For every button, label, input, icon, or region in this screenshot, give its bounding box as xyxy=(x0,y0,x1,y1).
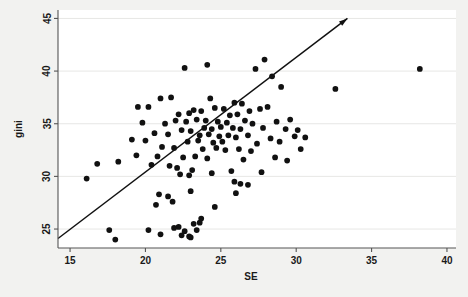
data-point xyxy=(180,155,186,161)
data-point xyxy=(233,190,239,196)
data-point xyxy=(262,57,268,63)
data-point xyxy=(106,227,112,233)
data-point xyxy=(210,140,216,146)
data-point xyxy=(268,136,274,142)
data-point xyxy=(204,156,210,162)
data-point xyxy=(283,126,289,132)
data-point xyxy=(238,126,244,132)
data-point xyxy=(112,237,118,243)
data-point xyxy=(233,135,239,141)
data-point xyxy=(247,108,253,114)
data-point xyxy=(191,221,197,227)
x-tick-label: 40 xyxy=(441,255,453,266)
data-point xyxy=(232,179,238,185)
data-point xyxy=(302,135,308,141)
data-point xyxy=(94,161,100,167)
data-point xyxy=(195,138,201,144)
data-point xyxy=(188,128,194,134)
data-point xyxy=(274,119,280,125)
data-point xyxy=(224,120,230,126)
data-point xyxy=(278,84,284,90)
data-point xyxy=(277,139,283,145)
data-point xyxy=(235,111,241,117)
data-point xyxy=(182,65,188,71)
data-point xyxy=(298,146,304,152)
data-point xyxy=(183,119,189,125)
data-point xyxy=(179,127,185,133)
data-point xyxy=(173,118,179,124)
data-point xyxy=(236,146,242,152)
data-point xyxy=(140,120,146,126)
data-point xyxy=(174,165,180,171)
data-point xyxy=(155,154,161,160)
data-point xyxy=(134,152,140,158)
data-point xyxy=(333,86,339,92)
data-point xyxy=(158,231,164,237)
data-point xyxy=(146,104,152,110)
data-point xyxy=(242,118,248,124)
x-axis-title: SE xyxy=(244,271,258,282)
data-point xyxy=(265,104,271,110)
data-point xyxy=(241,157,247,163)
data-point xyxy=(209,170,215,176)
data-point xyxy=(152,130,158,136)
data-point xyxy=(84,176,90,182)
data-point xyxy=(260,125,266,131)
data-point xyxy=(222,147,228,153)
data-point xyxy=(194,227,200,233)
data-point xyxy=(204,62,210,68)
plot-area-background xyxy=(58,10,456,248)
x-tick-label: 30 xyxy=(291,255,303,266)
data-point xyxy=(245,132,251,138)
data-point xyxy=(250,121,256,127)
data-point xyxy=(272,155,278,161)
data-point xyxy=(188,188,194,194)
data-point xyxy=(257,106,263,112)
data-point xyxy=(186,172,192,178)
y-tick-label: 30 xyxy=(41,170,52,182)
data-point xyxy=(287,117,293,123)
data-point xyxy=(218,124,224,130)
data-point xyxy=(254,141,260,147)
data-point xyxy=(295,127,301,133)
data-point xyxy=(135,104,141,110)
data-point xyxy=(167,163,173,169)
data-point xyxy=(213,145,219,151)
data-point xyxy=(253,66,259,72)
data-point xyxy=(219,139,225,145)
data-point xyxy=(159,144,165,150)
data-point xyxy=(239,101,245,107)
data-point xyxy=(259,169,265,175)
data-point xyxy=(230,125,236,131)
data-point xyxy=(179,232,185,238)
data-point xyxy=(188,235,194,241)
x-tick-label: 15 xyxy=(64,255,76,266)
data-point xyxy=(228,168,234,174)
data-point xyxy=(225,132,231,138)
data-point xyxy=(245,182,251,188)
data-point xyxy=(417,66,423,72)
data-point xyxy=(292,133,298,139)
y-tick-label: 35 xyxy=(42,118,53,130)
data-point xyxy=(227,112,233,118)
y-tick-label: 45 xyxy=(42,12,53,24)
data-point xyxy=(146,227,152,233)
data-point xyxy=(238,181,244,187)
y-tick-label: 40 xyxy=(41,65,52,77)
data-point xyxy=(198,108,204,114)
data-point xyxy=(200,146,206,152)
data-point xyxy=(158,96,164,102)
data-point xyxy=(186,110,192,116)
data-point xyxy=(206,131,212,137)
x-tick-label: 25 xyxy=(215,255,227,266)
data-point xyxy=(143,138,149,144)
data-point xyxy=(156,191,162,197)
data-point xyxy=(212,105,218,111)
data-point xyxy=(153,202,159,208)
data-point xyxy=(171,225,177,231)
data-point xyxy=(165,131,171,137)
data-point xyxy=(165,194,171,200)
data-point xyxy=(115,159,121,165)
data-point xyxy=(129,137,135,143)
data-point xyxy=(207,96,213,102)
